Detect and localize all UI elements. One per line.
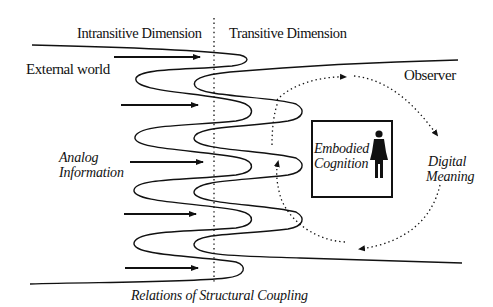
embodied-cognition-label: Embodied Cognition	[314, 142, 369, 171]
external-world-label: External world	[26, 62, 110, 78]
observer-label: Observer	[404, 68, 456, 84]
digital-meaning-line2: Meaning	[426, 170, 474, 185]
embodied-cognition-line1: Embodied	[314, 142, 369, 157]
analog-information-line1: Analog	[59, 151, 124, 166]
transitive-dimension-label: Transitive Dimension	[229, 26, 347, 41]
embodied-cognition-line2: Cognition	[314, 157, 369, 172]
diagram-caption: Relations of Structural Coupling	[131, 289, 308, 304]
digital-meaning-label: Digital Meaning	[426, 155, 474, 184]
cycle-arrow-top	[277, 77, 345, 100]
analog-information-label: Analog Information	[59, 151, 124, 180]
digital-meaning-line1: Digital	[426, 155, 474, 170]
intransitive-dimension-label: Intransitive Dimension	[77, 26, 202, 41]
analog-information-line2: Information	[59, 166, 124, 181]
